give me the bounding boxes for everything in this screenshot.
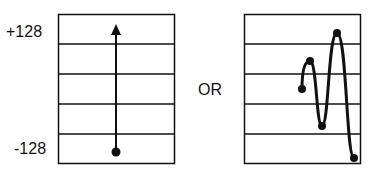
curve-dot-end: [350, 154, 358, 162]
curve-dot-peak-1: [306, 57, 314, 65]
start-dot: [112, 148, 121, 157]
curve-dot-peak-2: [333, 29, 341, 37]
curve-dot-trough: [318, 122, 326, 130]
diagram-canvas: [0, 0, 371, 177]
curve-dot-start: [298, 85, 306, 93]
oscillating-curve: [298, 29, 358, 162]
